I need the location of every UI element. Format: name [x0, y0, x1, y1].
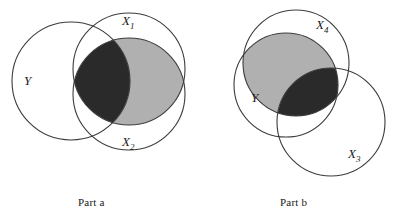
region-a-gray	[0, 0, 394, 219]
set-label-y-a: Y	[24, 73, 33, 88]
venn-diagram-canvas: Y X1 X2	[0, 0, 394, 219]
set-label-x2: X2	[121, 134, 135, 152]
part-a-group: Y X1 X2	[0, 0, 394, 219]
set-label-x1: X1	[121, 13, 134, 31]
region-b-gray	[0, 0, 394, 219]
caption-part-b: Part b	[280, 196, 307, 208]
region-b-dark	[0, 0, 394, 219]
caption-part-a: Part a	[78, 196, 105, 208]
venn-figure: Y X1 X2	[0, 0, 394, 219]
set-label-x3: X3	[347, 146, 361, 164]
region-a-dark	[0, 0, 394, 219]
part-b-group: Y X4 X3	[0, 0, 394, 219]
